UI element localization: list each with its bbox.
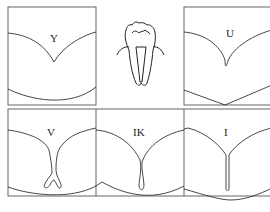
tooth-cross-section-icon bbox=[117, 22, 164, 85]
panel-v: V bbox=[8, 126, 96, 195]
panel-label-y: Y bbox=[50, 32, 58, 44]
panel-label-u: U bbox=[226, 27, 234, 39]
panel-i: I bbox=[184, 126, 270, 200]
panel-u: U bbox=[184, 7, 270, 105]
panel-label-i: I bbox=[224, 126, 228, 138]
panel-y: Y bbox=[8, 7, 96, 105]
panel-ik: IK bbox=[96, 126, 184, 195]
canal-configuration-diagram: Y U V bbox=[0, 0, 270, 212]
panel-label-ik: IK bbox=[133, 126, 145, 138]
panel-label-v: V bbox=[47, 126, 55, 138]
